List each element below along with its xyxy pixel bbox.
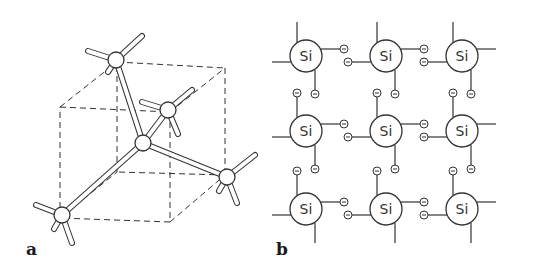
si-label: Si: [300, 123, 313, 139]
bond-rod: [62, 143, 143, 215]
panel-b-silicon-lattice: SiSiSiSiSiSiSiSiSi: [272, 22, 496, 243]
electron-icon: [420, 58, 428, 66]
electron-icon: [293, 167, 301, 175]
panel-label-b: b: [276, 239, 288, 259]
atom-bottom-left: [54, 207, 70, 223]
si-label: Si: [300, 48, 313, 64]
electron-icon: [420, 120, 428, 128]
silicon-crystal-figure: a SiSiSiSiSiSiSiSiSi b: [0, 0, 533, 267]
panel-label-a: a: [26, 239, 37, 259]
electron-icon: [420, 45, 428, 53]
electron-icon: [420, 198, 428, 206]
bond-rod: [116, 60, 143, 143]
electron-icon: [340, 198, 348, 206]
electron-icon: [449, 167, 457, 175]
si-atom: Si: [370, 193, 402, 225]
electron-icon: [467, 165, 475, 173]
si-label: Si: [380, 123, 393, 139]
atom-center: [135, 135, 151, 151]
si-label: Si: [456, 201, 469, 217]
electron-icon: [373, 167, 381, 175]
si-atom: Si: [370, 40, 402, 72]
si-label: Si: [456, 123, 469, 139]
electron-icon: [340, 45, 348, 53]
si-label: Si: [456, 48, 469, 64]
electron-icon: [420, 133, 428, 141]
si-atom: Si: [446, 115, 478, 147]
panel-a-tetrahedral-model: [36, 36, 255, 243]
electron-icon: [391, 90, 399, 98]
electron-icon: [293, 89, 301, 97]
atom-upper-right: [160, 102, 176, 118]
electron-icon: [391, 165, 399, 173]
electron-icon: [311, 90, 319, 98]
si-atom: Si: [446, 40, 478, 72]
atom-top: [108, 52, 124, 68]
si-atom: Si: [290, 193, 322, 225]
si-label: Si: [380, 201, 393, 217]
si-atom: Si: [290, 115, 322, 147]
electron-icon: [344, 58, 352, 66]
electron-icon: [420, 211, 428, 219]
si-atom: Si: [290, 40, 322, 72]
cube-edge: [117, 62, 225, 68]
electron-icon: [449, 89, 457, 97]
electron-icon: [340, 120, 348, 128]
cube-edge: [170, 175, 225, 222]
atom-right: [219, 169, 235, 185]
electron-icon: [344, 211, 352, 219]
cube-edge: [170, 68, 225, 112]
electron-icon: [311, 165, 319, 173]
electron-icon: [467, 90, 475, 98]
cube-edge: [60, 218, 170, 222]
electron-icon: [373, 89, 381, 97]
si-label: Si: [300, 201, 313, 217]
si-label: Si: [380, 48, 393, 64]
si-atom: Si: [446, 193, 478, 225]
electron-icon: [344, 133, 352, 141]
bond-rod: [143, 143, 227, 177]
si-atom: Si: [370, 115, 402, 147]
